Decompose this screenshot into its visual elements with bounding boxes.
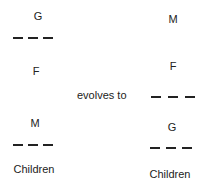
right-lower-dashed-line [150,147,192,149]
left-lower-dashed-line [13,144,53,146]
right-middle-label: F [170,60,177,72]
right-bottom-label: Children [150,168,191,180]
evolves-to-text: evolves to [77,89,127,101]
left-top-label: G [34,10,43,22]
left-upper-dashed-line [13,37,53,39]
right-top-label: M [168,13,177,25]
right-lower-label: G [168,121,177,133]
left-bottom-label: Children [14,163,55,175]
right-upper-dashed-line [151,96,195,98]
left-lower-label: M [30,117,39,129]
left-middle-label: F [33,65,40,77]
